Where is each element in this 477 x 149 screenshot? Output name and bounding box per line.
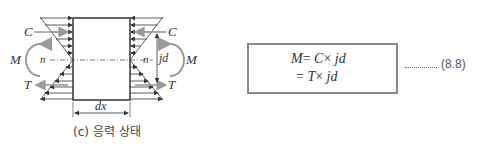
label-jd: jd	[157, 51, 169, 65]
label-dx: dx	[95, 99, 107, 113]
label-c-left: C	[24, 24, 33, 39]
label-m-left: M	[9, 52, 22, 67]
eq-times: ×	[323, 51, 331, 66]
label-n-right: n	[143, 53, 149, 65]
label-n-left: n	[40, 53, 46, 65]
equation-line-2: = T× jd	[296, 69, 338, 85]
equation-line-1: M= C× jd	[291, 51, 346, 67]
equation-leader-dots	[405, 67, 437, 68]
figure-caption: (c) 응력 상태	[73, 125, 141, 139]
equation-number: (8.8)	[441, 57, 466, 71]
beam-stress-state-diagram: C C M M n n T T jd dx (c) 응력 상태	[0, 0, 210, 149]
eq-moment-symbol: M	[291, 51, 303, 66]
eq-lever-arm: jd	[335, 51, 346, 66]
moment-right-curved-arrow	[170, 44, 184, 76]
eq-equals: =	[296, 69, 304, 84]
beam-element	[73, 18, 130, 100]
label-c-right: C	[168, 24, 177, 39]
label-t-right: T	[168, 77, 176, 92]
equation-box: M= C× jd = T× jd	[247, 43, 398, 94]
moment-left-curved-arrow	[26, 44, 40, 76]
label-t-left: T	[24, 77, 32, 92]
eq-lever-arm: jd	[327, 69, 338, 84]
label-m-right: M	[185, 52, 198, 67]
eq-times: ×	[315, 69, 323, 84]
eq-equals: =	[303, 51, 311, 66]
